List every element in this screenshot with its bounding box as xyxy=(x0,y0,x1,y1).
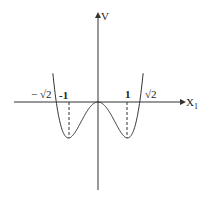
potential-diagram: V X1 − √2 -1 1 √2 xyxy=(0,0,205,200)
tick-label-neg-sqrt2: − √2 xyxy=(31,88,52,100)
tick-label-1: 1 xyxy=(125,88,131,100)
y-axis-label: V xyxy=(101,10,109,22)
tick-label-sqrt2: √2 xyxy=(145,88,157,100)
tick-label-neg1: -1 xyxy=(59,89,68,101)
x-axis-label: X1 xyxy=(186,96,198,111)
